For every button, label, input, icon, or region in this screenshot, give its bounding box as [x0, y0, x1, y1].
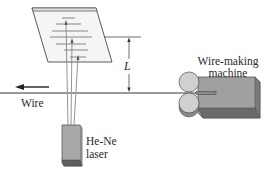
- distance-label-L: L: [124, 60, 131, 72]
- wire-direction-arrow-icon: [15, 84, 49, 90]
- laser-label-line1: He-Ne: [86, 135, 117, 147]
- machine-label-line1: Wire-making: [196, 55, 260, 67]
- machine-label-line2: machine: [196, 67, 260, 79]
- laser-label-line2: laser: [86, 148, 108, 160]
- wire-label: Wire: [21, 97, 44, 109]
- distance-L-indicator: [104, 37, 141, 92]
- he-ne-laser: [62, 125, 82, 166]
- diagram-canvas: [0, 0, 272, 174]
